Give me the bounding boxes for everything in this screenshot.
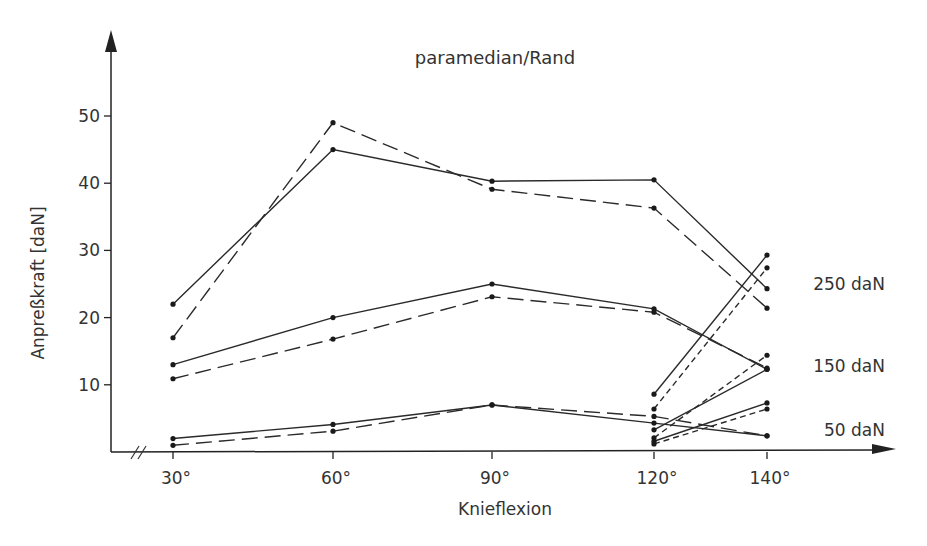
data-point	[651, 177, 656, 182]
data-point	[764, 353, 769, 358]
chart-title: paramedian/Rand	[415, 47, 575, 68]
y-tick-label: 20	[78, 308, 100, 328]
data-point	[489, 187, 494, 192]
load-label: 250 daN	[813, 274, 885, 294]
data-point	[489, 179, 494, 184]
data-point	[330, 337, 335, 342]
load-labels: 250 daN150 daN50 daN	[813, 274, 885, 440]
series-group	[170, 120, 769, 448]
load-label: 50 daN	[824, 420, 885, 440]
data-point	[330, 422, 335, 427]
data-point	[489, 402, 494, 407]
data-point	[330, 429, 335, 434]
y-tick-label: 10	[78, 375, 100, 395]
data-point	[170, 335, 175, 340]
data-point	[651, 205, 656, 210]
y-axis: 1020304050 Anpreßkraft [daN]	[28, 30, 117, 452]
data-point	[764, 406, 769, 411]
y-tick-label: 40	[78, 173, 100, 193]
data-point	[170, 302, 175, 307]
data-point	[170, 436, 175, 441]
y-axis-arrow-icon	[105, 30, 117, 52]
data-point	[170, 443, 175, 448]
data-point	[489, 294, 494, 299]
data-point	[330, 120, 335, 125]
series-line	[170, 294, 769, 381]
y-tick-label: 50	[78, 106, 100, 126]
data-point	[764, 265, 769, 270]
x-tick-label: 30°	[161, 468, 191, 488]
x-axis: 30°60°90°120°140° Knieflexion	[111, 444, 896, 519]
x-axis-label: Knieflexion	[458, 499, 552, 519]
data-point	[170, 362, 175, 367]
series-line	[651, 253, 769, 397]
series-line	[170, 120, 769, 340]
data-point	[651, 427, 656, 432]
y-axis-label: Anpreßkraft [daN]	[28, 206, 48, 359]
load-label: 150 daN	[813, 356, 885, 376]
data-point	[651, 414, 656, 419]
data-point	[170, 376, 175, 381]
data-point	[764, 253, 769, 258]
data-point	[651, 421, 656, 426]
y-tick-label: 30	[78, 240, 100, 260]
x-axis-arrow-icon	[872, 444, 896, 454]
series-line	[170, 402, 769, 448]
x-tick-label: 140°	[750, 468, 791, 488]
data-point	[764, 433, 769, 438]
x-tick-label: 60°	[321, 468, 351, 488]
data-point	[764, 286, 769, 291]
data-point	[764, 400, 769, 405]
series-line	[651, 353, 769, 441]
data-point	[651, 406, 656, 411]
data-point	[651, 392, 656, 397]
data-point	[330, 147, 335, 152]
series-line	[170, 281, 769, 372]
series-line	[651, 265, 769, 411]
data-point	[330, 315, 335, 320]
data-point	[651, 441, 656, 446]
x-tick-label: 120°	[637, 468, 678, 488]
x-tick-label: 90°	[480, 468, 510, 488]
data-point	[651, 310, 656, 315]
data-point	[489, 281, 494, 286]
series-line	[170, 147, 769, 307]
data-point	[764, 367, 769, 372]
chart: paramedian/Rand 1020304050 Anpreßkraft […	[0, 0, 927, 546]
data-point	[764, 306, 769, 311]
